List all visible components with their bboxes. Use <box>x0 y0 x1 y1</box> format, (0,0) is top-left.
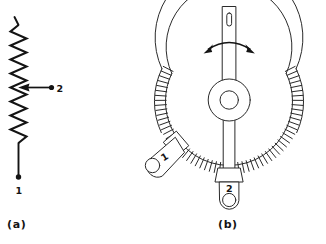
terminal-dot-icon <box>16 174 21 179</box>
panel-a-caption: (a) <box>7 218 26 231</box>
winding-turn <box>291 113 302 115</box>
winding-turn <box>289 76 299 80</box>
winding-turn <box>158 117 169 120</box>
winding-turn <box>156 109 167 111</box>
winding-turn <box>290 80 301 83</box>
winding-turn <box>191 154 197 163</box>
winding-turn <box>157 113 168 115</box>
winding-turn <box>156 90 167 91</box>
winding-turn <box>161 125 171 129</box>
winding-turn <box>157 85 168 87</box>
winding-turn <box>161 71 171 75</box>
winding-turn <box>285 66 295 71</box>
panel-b-caption: (b) <box>218 218 238 231</box>
winding-turn <box>292 95 303 96</box>
winding-turn <box>158 80 169 83</box>
hub-inner <box>220 91 238 109</box>
resistor-zigzag-icon <box>11 25 27 143</box>
winding-turn <box>283 133 292 139</box>
winding-turn <box>287 71 297 75</box>
lug2-collar <box>215 168 243 182</box>
winding-turn <box>287 125 297 129</box>
screwdriver-slot-icon <box>227 13 232 26</box>
winding-turn <box>155 105 166 106</box>
solder-lug-terminal-2-icon: 2 <box>215 168 243 209</box>
winding-turn <box>292 109 303 111</box>
winding-turn <box>160 121 170 125</box>
winding-turn <box>291 85 302 87</box>
winding-turn <box>159 76 169 80</box>
lug2-hole <box>223 193 236 206</box>
winding-turn <box>155 95 166 96</box>
panel-b-group: 1 2 <box>145 0 303 231</box>
top-lead <box>15 17 19 25</box>
winding-turn <box>163 66 173 71</box>
panel-a-wiper-2-label: 2 <box>57 83 64 94</box>
figure-svg: 1 2 (a) <box>0 0 326 244</box>
winding-turn <box>292 105 303 106</box>
panel-a-terminal-1-label: 1 <box>16 185 23 196</box>
winding-turn <box>285 129 295 134</box>
wiper-terminal-dot-icon <box>49 85 54 90</box>
figure-root: 1 2 (a) <box>0 0 326 244</box>
winding-turn <box>288 121 298 125</box>
wiper-arrow-icon <box>18 84 29 92</box>
winding-turn <box>290 117 301 120</box>
panel-a-group: 1 2 (a) <box>7 17 63 231</box>
rotor-hub-icon <box>208 79 250 121</box>
panel-b-terminal-2-label: 2 <box>226 183 233 194</box>
winding-inner-arc-lower-right <box>286 73 292 127</box>
winding-turn <box>292 90 303 91</box>
lug1-hole <box>145 158 159 172</box>
